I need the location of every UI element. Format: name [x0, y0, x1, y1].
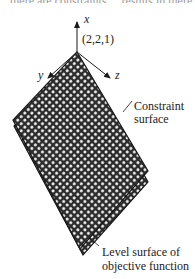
constraint-label-line2: surface: [134, 113, 169, 126]
point-label: (2,2,1): [82, 33, 114, 46]
x-axis-label: x: [84, 13, 89, 26]
y-axis-label: y: [38, 69, 43, 82]
level-label-line2: objective function: [102, 260, 189, 273]
constraint-leader-line: [123, 101, 132, 112]
constraint-surface: [13, 52, 148, 249]
level-label-line1: Level surface of: [102, 246, 180, 259]
z-axis-label: z: [115, 69, 120, 82]
